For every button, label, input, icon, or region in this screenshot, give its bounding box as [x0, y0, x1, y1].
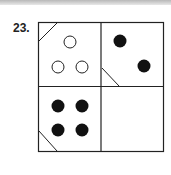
- filled-dot: [52, 100, 65, 113]
- hollow-dot: [52, 61, 64, 73]
- cell-top-left: [39, 23, 88, 73]
- hollow-dot: [76, 61, 88, 73]
- hollow-dot: [64, 36, 76, 48]
- filled-dot: [114, 35, 127, 48]
- cell-top-right: [102, 35, 151, 87]
- filled-dot: [76, 124, 89, 137]
- corner-line: [39, 23, 57, 41]
- cell-bottom-right-blank: [102, 88, 163, 151]
- filled-dot: [52, 124, 65, 137]
- filled-dot: [138, 60, 151, 73]
- puzzle-grid: [0, 0, 171, 175]
- filled-dot: [76, 100, 89, 113]
- corner-line: [102, 68, 119, 86]
- cell-bottom-left: [39, 100, 89, 152]
